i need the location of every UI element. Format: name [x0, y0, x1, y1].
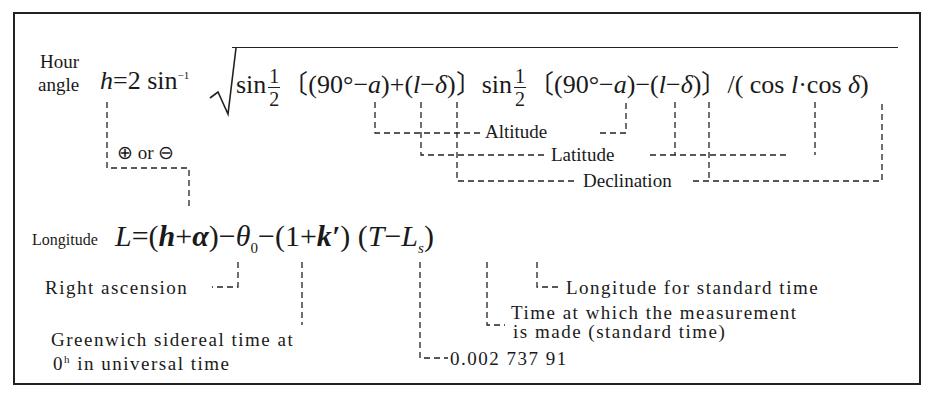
minus: − [384, 219, 401, 252]
cos-dot: ·cos [798, 70, 848, 99]
numerator: 1 [515, 66, 525, 86]
universal-time: in universal time [71, 353, 230, 374]
L-symbol: L [115, 219, 132, 252]
theta-sub: 0 [251, 240, 259, 256]
plus: + [175, 219, 192, 252]
declination-d2: δ [681, 70, 693, 99]
fraction-half-1: 12 [268, 66, 280, 109]
longitude-formula: L=(h+α)−θ0−(1+k′) (T−Ls) [115, 221, 434, 256]
part4: 〔(90°− [528, 70, 614, 99]
sin-1: sin [236, 70, 266, 99]
radicand: sin12〔(90°−a)+(l−δ)〕sin12〔(90°−a)−(l−δ)〕… [236, 66, 869, 109]
plus-or-minus-note: ⊕ or ⊖ [117, 143, 174, 162]
p1: )− [209, 219, 236, 252]
T-symbol: T [368, 219, 385, 252]
greenwich-label-line1: Greenwich sidereal time at [51, 330, 294, 349]
declination-label: Declination [583, 171, 672, 190]
declination-d1: δ [435, 70, 447, 99]
part3: )〕sin [447, 70, 512, 99]
latitude-l2: l [659, 70, 666, 99]
alpha-symbol: α [192, 219, 209, 252]
altitude-a1: a [368, 70, 381, 99]
altitude-a2: a [614, 70, 627, 99]
part2: )+( [381, 70, 413, 99]
minus2: − [666, 70, 681, 99]
Ls-symbol: L [401, 219, 418, 252]
part6: )〕/( cos [693, 70, 791, 99]
eq-open: =( [132, 219, 159, 252]
part5: )−( [627, 70, 659, 99]
part1: 〔(90°− [282, 70, 368, 99]
p2: −(1+ [258, 219, 317, 252]
fraction-half-2: 12 [514, 66, 526, 109]
p3: ) ( [340, 219, 367, 252]
greenwich-label-line2: 0h in universal time [53, 354, 230, 373]
declination-d3: δ [848, 70, 860, 99]
theta-symbol: θ [236, 219, 251, 252]
h-symbol-2: h [159, 219, 176, 252]
numerator: 1 [269, 66, 279, 86]
k-value-label: 0.002 737 91 [450, 349, 568, 368]
minus1: − [420, 70, 435, 99]
zero: 0 [53, 353, 64, 374]
right-ascension-label: Right ascension [45, 278, 188, 297]
h-sup: h [64, 353, 71, 365]
time-label-line2: is made (standard time) [513, 322, 726, 341]
altitude-label: Altitude [485, 122, 547, 141]
close: ) [424, 219, 434, 252]
time-label-line1: Time at which the measurement [511, 303, 798, 322]
denominator: 2 [515, 89, 525, 109]
longitude-label: Longitude [32, 232, 98, 248]
longitude-standard-label: Longitude for standard time [566, 278, 819, 297]
latitude-label: Latitude [551, 145, 614, 164]
close-paren: ) [860, 70, 869, 99]
denominator: 2 [269, 89, 279, 109]
k-prime: k′ [317, 219, 340, 252]
